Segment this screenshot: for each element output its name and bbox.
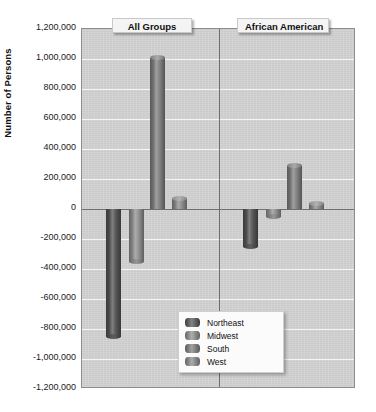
y-tick-label: 400,000	[4, 142, 76, 152]
panel-title-african-american: African American	[237, 18, 329, 33]
legend-swatch-midwest	[185, 331, 200, 340]
y-tick-label: -800,000	[4, 322, 76, 332]
bar-cap	[172, 196, 187, 201]
legend-item-south[interactable]: South	[185, 342, 278, 355]
zero-axis-line	[82, 209, 354, 210]
legend-label: West	[207, 357, 226, 367]
y-tick-label: 0	[4, 202, 76, 212]
y-tick-label: 800,000	[4, 82, 76, 92]
legend-item-west[interactable]: West	[185, 355, 278, 368]
y-tick-label: -1,200,000	[4, 382, 76, 392]
gridline	[82, 299, 354, 300]
legend-swatch-northeast	[185, 318, 200, 327]
bar-body	[287, 166, 302, 210]
bar-african-american-midwest	[266, 209, 281, 217]
bar-cap	[266, 214, 281, 219]
bar-all-groups-midwest	[129, 209, 144, 262]
y-tick-label: 1,000,000	[4, 52, 76, 62]
y-tick-label: 200,000	[4, 172, 76, 182]
bar-all-groups-south	[150, 58, 165, 210]
bar-all-groups-west	[172, 199, 187, 210]
y-tick-label: -400,000	[4, 262, 76, 272]
bar-cap	[129, 259, 144, 264]
y-tick-label: 1,200,000	[4, 22, 76, 32]
bar-body	[106, 209, 121, 337]
legend-swatch-west	[185, 357, 200, 366]
legend-swatch-south	[185, 344, 200, 353]
bar-cap	[309, 201, 324, 206]
bar-african-american-south	[287, 166, 302, 210]
y-tick-label: -600,000	[4, 292, 76, 302]
legend: NortheastMidwestSouthWest	[178, 311, 284, 373]
gridline	[82, 119, 354, 120]
gridline	[82, 149, 354, 150]
y-tick-label: -200,000	[4, 232, 76, 242]
chart-figure: Number of Persons 1,200,0001,000,000800,…	[0, 0, 376, 412]
gridline	[82, 59, 354, 60]
y-tick-label: 600,000	[4, 112, 76, 122]
bar-african-american-northeast	[243, 209, 258, 247]
gridline	[82, 89, 354, 90]
bar-body	[243, 209, 258, 247]
gridline	[82, 179, 354, 180]
y-axis-title: Number of Persons	[2, 28, 18, 158]
legend-item-midwest[interactable]: Midwest	[185, 329, 278, 342]
bar-african-american-west	[309, 203, 324, 209]
bar-cap	[150, 55, 165, 60]
legend-label: Northeast	[207, 318, 244, 328]
y-tick-label: -1,000,000	[4, 352, 76, 362]
bar-cap	[106, 334, 121, 339]
gridline	[82, 269, 354, 270]
bar-all-groups-northeast	[106, 209, 121, 337]
gridline	[82, 239, 354, 240]
bar-body	[129, 209, 144, 262]
legend-label: South	[207, 344, 229, 354]
bar-cap	[287, 163, 302, 168]
bar-cap	[243, 244, 258, 249]
legend-label: Midwest	[207, 331, 238, 341]
bar-body	[150, 58, 165, 210]
panel-title-all-groups: All Groups	[112, 18, 192, 33]
legend-item-northeast[interactable]: Northeast	[185, 316, 278, 329]
